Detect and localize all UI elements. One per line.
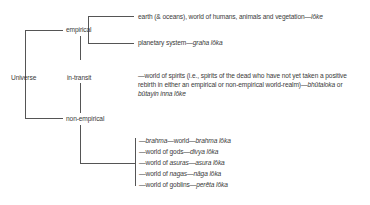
empirical-top-branch-line <box>88 16 134 17</box>
empirical-label: empirical <box>66 25 91 34</box>
transit-trunk-line <box>80 36 81 60</box>
in-transit-label: in-transit <box>67 73 91 82</box>
non-empirical-bracket-line <box>135 138 136 186</box>
transit-lower-line <box>80 83 81 113</box>
universe-label: Universe <box>11 73 36 82</box>
empirical-item: earth (& oceans), world of humans, anima… <box>138 12 323 21</box>
universe-to-empirical-line <box>25 30 63 31</box>
empirical-bottom-branch-line <box>88 43 134 44</box>
non-empirical-label: non-empirical <box>66 114 104 123</box>
empirical-item: planetary system—graha lōka <box>138 38 223 47</box>
in-transit-description: —world of spirits (i.e., spirits of the … <box>138 71 347 99</box>
non-empirical-branch-line <box>80 163 135 164</box>
non-empirical-item: —world of gods—divya lōka <box>139 147 218 156</box>
universe-to-non-empirical-line <box>25 118 63 119</box>
non-empirical-trunk-line <box>80 125 81 163</box>
non-empirical-item: —brahma—world—brahma lōka <box>139 136 231 145</box>
non-empirical-item: —world of asuras—asura lōka <box>139 158 225 167</box>
non-empirical-item: —world of goblins—perēta lōka <box>139 180 228 189</box>
non-empirical-item: —world of nagas—nāga lōka <box>139 169 221 178</box>
